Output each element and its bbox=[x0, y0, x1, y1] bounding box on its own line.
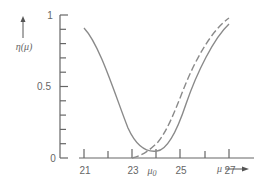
x-axis-label: μ bbox=[216, 163, 222, 174]
y-tick-label-0: 0 bbox=[50, 153, 56, 164]
x-tick-label-27: 27 bbox=[224, 165, 236, 176]
y-axis-label: η(μ) bbox=[16, 41, 33, 53]
x-axis bbox=[79, 149, 254, 158]
y-axis bbox=[60, 15, 68, 158]
x-tick-label-25: 25 bbox=[175, 165, 187, 176]
y-tick-label-1: 1 bbox=[47, 10, 53, 21]
y-axis-arrow-icon bbox=[21, 16, 26, 38]
x-tick-label-21: 21 bbox=[79, 165, 91, 176]
x-tick-label-mu0: μ0 bbox=[146, 165, 156, 176]
dashed-curve bbox=[132, 18, 229, 158]
chart-canvas: 1 0.5 0 21 23 μ0 25 27 η(μ) μ bbox=[0, 0, 268, 176]
x-tick-label-23: 23 bbox=[127, 165, 139, 176]
y-tick-label-0-5: 0.5 bbox=[37, 81, 51, 92]
